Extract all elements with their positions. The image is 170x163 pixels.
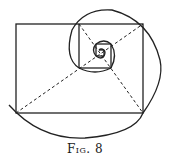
golden-spiral-diagram: [0, 0, 170, 163]
figure-caption: Fig. 8: [0, 142, 170, 156]
logarithmic-spiral: [9, 10, 161, 138]
